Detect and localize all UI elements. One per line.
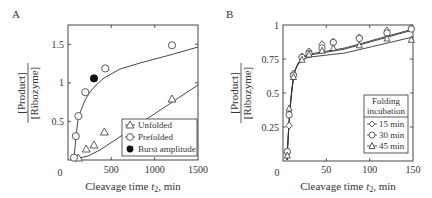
legend-prefolded: Prefolded (138, 132, 173, 142)
x-tick-a-1500: 1500 (188, 164, 208, 175)
panel-label-a: A (12, 8, 20, 20)
legend-45min: 45 min (379, 141, 405, 151)
y-tick-b-0.75: 0.75 (262, 54, 280, 65)
chart-a: A [Product] [Ribozyme] 0 500 1000 1500 0… (12, 8, 208, 194)
legend-burst: Burst amplitude (138, 144, 196, 154)
y-tick-a-1: 1 (59, 77, 64, 88)
legend-a: Unfolded Prefolded Burst amplitude (122, 119, 197, 156)
burst-amplitude-marker (90, 75, 97, 82)
x-axis-title-a: Cleavage time t2, min (85, 180, 181, 194)
legend-circle-icon (127, 134, 134, 141)
y-tick-a-1.5: 1.5 (52, 39, 65, 50)
y-tick-b-0.25: 0.25 (262, 122, 280, 133)
x-tick-b-150: 150 (406, 164, 421, 175)
svg-text:[Product]: [Product] (228, 72, 240, 114)
y-axis-title-a: [Product] [Ribozyme] (15, 63, 40, 123)
chart-b: B [Product] [Ribozyme] 0 50 100 150 0.25… (226, 8, 421, 194)
x-axis-title-b: Cleavage time t2, min (300, 180, 396, 194)
svg-text:[Ribozyme]: [Ribozyme] (241, 67, 253, 120)
legend-15min: 15 min (379, 119, 405, 129)
figure: A [Product] [Ribozyme] 0 500 1000 1500 0… (0, 0, 432, 198)
y-tick-b-1: 1 (274, 20, 279, 31)
legend-b-title-1: Folding (372, 96, 401, 106)
legend-b: Folding incubation 15 min 30 min 45 min (364, 95, 408, 153)
y-label-denominator: [Ribozyme] (28, 67, 40, 120)
x-tick-b-0: 0 (275, 167, 280, 178)
legend-filled-circle-icon (127, 146, 134, 153)
legend-circle-icon (369, 132, 375, 138)
y-axis-title-b: [Product] [Ribozyme] (228, 63, 253, 123)
panel-label-b: B (226, 8, 233, 20)
legend-30min: 30 min (379, 130, 405, 140)
legend-unfolded: Unfolded (138, 120, 172, 130)
x-tick-a-0: 0 (58, 167, 63, 178)
y-tick-b-0.5: 0.5 (267, 88, 280, 99)
x-tick-b-100: 100 (362, 164, 377, 175)
legend-b-title-2: incubation (367, 106, 405, 116)
y-label-numerator: [Product] (15, 72, 27, 114)
x-tick-b-50: 50 (321, 164, 331, 175)
x-tick-a-1000: 1000 (145, 164, 165, 175)
x-tick-a-500: 500 (104, 164, 119, 175)
y-tick-a-0.5: 0.5 (52, 116, 65, 127)
